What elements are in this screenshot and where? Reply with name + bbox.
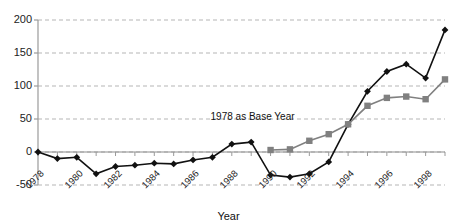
data-point-marker [442,76,448,82]
data-point-marker [364,103,370,109]
data-point-marker [345,121,351,127]
y-tick-label: 200 [0,13,32,25]
data-point-marker [326,131,332,137]
base-year-annotation: 1978 as Base Year [211,111,295,122]
data-point-marker [287,146,293,152]
data-point-marker [190,157,197,164]
data-point-marker [170,160,177,167]
data-point-marker [287,174,294,181]
y-tick-label: 0 [0,145,32,157]
data-point-marker [306,138,312,144]
data-point-marker [384,95,390,101]
data-point-marker [35,149,42,156]
data-point-marker [267,147,273,153]
chart-container: 200150100500-50 197819801982198419861988… [0,0,457,224]
series-line-black-diamond-series [38,30,445,177]
y-tick-label: 100 [0,79,32,91]
data-point-marker [422,96,428,102]
series-line-gray-square-series [271,79,445,150]
data-point-marker [248,139,255,146]
y-tick-label: 150 [0,46,32,58]
data-point-marker [442,27,449,34]
data-point-marker [54,155,61,162]
x-axis-title: Year [0,210,457,222]
data-point-marker [151,160,158,167]
y-tick-label: 50 [0,112,32,124]
data-point-marker [132,162,139,169]
data-point-marker [403,93,409,99]
